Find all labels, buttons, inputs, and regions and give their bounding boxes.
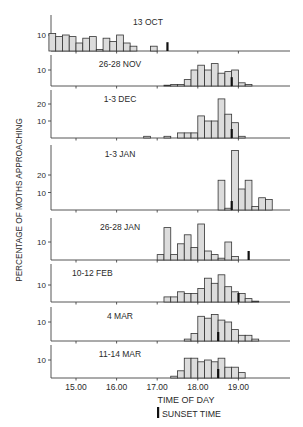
y-tick-label: 10 [37,189,46,198]
histogram-bar [90,37,97,51]
histogram-bar [211,121,218,138]
histogram-bar [245,335,252,341]
histogram-bar [171,84,178,86]
y-axis-label: PERCENTAGE OF MOTHS APPROACHING [15,118,24,282]
panel-axes [51,345,290,378]
histogram-bar [157,255,164,260]
histogram-bar [184,235,191,260]
panel-label: 1-3 JAN [105,149,136,159]
sunset-marker [248,251,250,260]
histogram-bar [205,360,212,378]
histogram-bar [178,244,185,260]
y-tick-label: 20 [37,171,46,180]
x-tick-labels: 15.0016.0017.0018.0019.00 [65,382,249,392]
x-tick-label: 18.00 [187,382,209,392]
histogram-bar [225,242,232,260]
histogram-bar [205,70,212,86]
panel-11-14-mar: 1011-14 MAR [37,345,290,381]
histogram-bar [198,65,205,86]
histogram-bar [117,35,124,51]
sunset-marker [231,129,233,138]
histogram-bar [205,318,212,341]
histogram-bar [211,64,218,86]
histogram-bar [232,292,239,302]
histogram-bar [164,297,171,302]
panel-1-3-dec: 10201-3 DEC [37,90,290,141]
histogram-bar [225,322,232,341]
histogram-bar [191,247,198,260]
panel-4-mar: 104 MAR [37,307,290,344]
histogram-bar [164,85,171,86]
histogram-bar [238,189,245,210]
panel-1-3-jan: 10201-3 JAN [37,145,290,213]
panel-axes [51,55,290,86]
sunset-marker [231,77,233,86]
histogram-bar [130,46,137,51]
histogram-bar [171,255,178,260]
histogram-bar [245,299,252,302]
histogram-bar [76,43,83,51]
sunset-marker [217,332,219,341]
histogram-bar [110,41,117,51]
histogram-bar [198,316,205,341]
y-tick-label: 10 [37,117,46,126]
histogram-bar [198,116,205,138]
histogram-bar [184,133,191,138]
histogram-bar [184,358,191,378]
y-tick-label: 10 [37,31,46,40]
histogram-bar [198,362,205,378]
histogram-bar [103,38,110,51]
histogram-bar [178,84,185,86]
panel-axes [51,307,290,341]
histogram-bar [178,292,185,302]
histogram-bar [144,136,151,138]
panel-13-oct: 1013 OCT [37,15,290,54]
histogram-bar [218,258,225,260]
panel-26-28-jan: 1026-28 JAN [37,218,290,263]
y-tick-label: 20 [37,100,46,109]
histogram-bar [232,256,239,260]
histogram-bar [198,224,205,260]
panel-label: 10-12 FEB [72,268,113,278]
histogram-bar [62,35,69,51]
histogram-bar [252,301,259,302]
y-tick-label: 10 [37,356,46,365]
histogram-bar [205,121,212,138]
panel-26-28-nov: 1026-28 NOV [37,55,290,89]
histogram-bar [211,362,218,378]
y-tick-label: 10 [37,281,46,290]
x-tick-label: 16.00 [106,382,128,392]
panel-label: 4 MAR [107,311,133,321]
histogram-bar [83,38,90,51]
sunset-marker [231,201,233,210]
moth-activity-chart: PERCENTAGE OF MOTHS APPROACHING 1013 OCT… [0,0,303,427]
histogram-bar [96,49,103,51]
histogram-bar [150,46,157,51]
legend: SUNSET TIME [157,407,221,419]
histogram-bar [211,255,218,260]
histogram-bar [184,339,191,341]
legend-sunset-swatch [157,407,159,418]
histogram-bar [191,70,198,86]
histogram-bar [245,84,252,86]
x-axis-label: TIME OF DAY [158,395,215,405]
histogram-bar [232,330,239,341]
histogram-bar [191,133,198,138]
histogram-bar [184,80,191,86]
histogram-bar [211,314,218,341]
sunset-marker [237,293,239,302]
histogram-bar [252,339,259,341]
histogram-bar [218,99,225,138]
histogram-bar [191,294,198,303]
x-tick-label: 15.00 [65,382,87,392]
histogram-bar [211,283,218,302]
histogram-bar [238,83,245,86]
x-tick-label: 17.00 [147,382,169,392]
panel-label: 26-28 NOV [99,59,142,69]
histogram-bar [218,275,225,302]
panel-10-12-feb: 1010-12 FEB [37,264,290,305]
histogram-bar [178,133,185,138]
histogram-bar [238,136,245,138]
histogram-bar [265,200,272,211]
histogram-bar [205,278,212,302]
